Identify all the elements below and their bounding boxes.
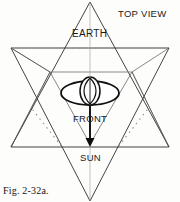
label-front: FRONT [73, 113, 107, 124]
label-top-view: TOP VIEW [118, 8, 167, 19]
edge-left-point-b [11, 72, 50, 147]
central-body-group [61, 77, 119, 105]
dotted-left-diagonal [33, 110, 62, 147]
edge-right-outer-to-inner [132, 48, 169, 72]
arrow-head [86, 138, 95, 147]
label-sun: SUN [80, 152, 101, 163]
label-earth: EARTH [72, 28, 107, 39]
figure-caption: Fig. 2-32a. [3, 185, 49, 196]
figure-container: TOP VIEW EARTH FRONT SUN Fig. 2-32a. [0, 0, 180, 202]
dotted-right-diagonal [118, 110, 147, 147]
